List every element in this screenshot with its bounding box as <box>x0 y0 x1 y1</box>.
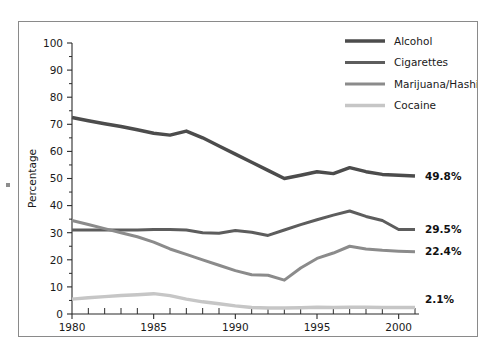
x-axis-major-ticks <box>72 314 399 319</box>
end-label-cigarettes: 29.5% <box>425 223 462 235</box>
x-tick-label-1980: 1980 <box>59 321 86 333</box>
y-axis-title: Percentage <box>26 149 38 208</box>
x-tick-label-1995: 1995 <box>304 321 331 333</box>
x-tick-label-1985: 1985 <box>140 321 167 333</box>
x-axis-tick-labels: 19801985199019952000 <box>59 321 412 333</box>
y-tick-label-20: 20 <box>50 254 63 266</box>
end-label-marijuana-hashish: 22.4% <box>425 245 462 257</box>
y-tick-label-40: 40 <box>50 199 63 211</box>
y-tick-label-10: 10 <box>50 281 63 293</box>
y-tick-label-100: 100 <box>43 37 63 49</box>
data-series-group <box>72 118 415 309</box>
legend-label-marijuana-hashish: Marijuana/Hashish <box>394 78 477 90</box>
legend-label-alcohol: Alcohol <box>394 35 432 47</box>
chart-legend: AlcoholCigarettesMarijuana/HashishCocain… <box>345 35 477 112</box>
end-label-cocaine: 2.1% <box>425 293 455 305</box>
x-tick-label-1990: 1990 <box>222 321 249 333</box>
y-tick-label-0: 0 <box>56 308 63 320</box>
chart-frame: 0102030405060708090100 19801985199019952… <box>18 21 478 337</box>
y-tick-label-60: 60 <box>50 145 63 157</box>
edge-artifact-mark <box>6 183 10 187</box>
y-tick-label-70: 70 <box>50 118 63 130</box>
line-chart-plot: 0102030405060708090100 19801985199019952… <box>19 22 477 336</box>
x-tick-label-2000: 2000 <box>385 321 412 333</box>
series-end-labels: 49.8%29.5%22.4%2.1% <box>425 170 462 306</box>
series-line-cigarettes <box>72 211 415 235</box>
y-tick-label-30: 30 <box>50 227 63 239</box>
y-tick-label-90: 90 <box>50 64 63 76</box>
legend-label-cigarettes: Cigarettes <box>394 56 448 68</box>
end-label-alcohol: 49.8% <box>425 170 462 182</box>
y-tick-label-50: 50 <box>50 172 63 184</box>
series-line-cocaine <box>72 294 415 308</box>
legend-label-cocaine: Cocaine <box>394 99 436 111</box>
y-axis-tick-labels: 0102030405060708090100 <box>43 37 63 320</box>
y-tick-label-80: 80 <box>50 91 63 103</box>
chart-figure: 0102030405060708090100 19801985199019952… <box>0 0 496 359</box>
series-line-alcohol <box>72 118 415 179</box>
